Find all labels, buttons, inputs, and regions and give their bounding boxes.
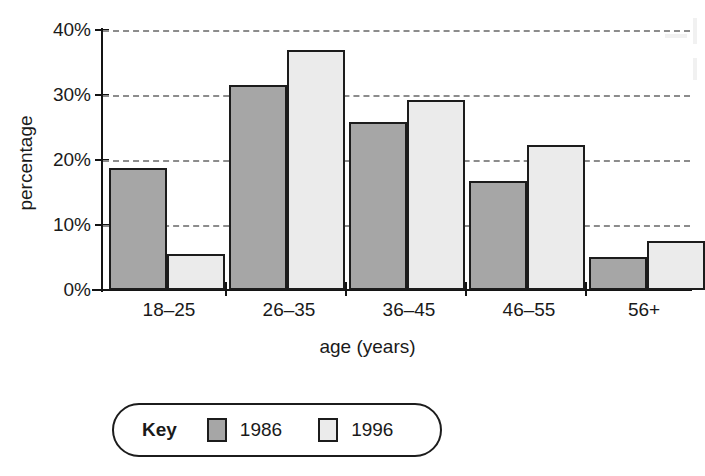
legend: Key 1986 1996 [112,403,442,457]
legend-title: Key [142,419,177,441]
y-tick-label-text: 30% [53,84,91,105]
x-category-label-46-55: 46–55 [469,299,589,321]
legend-item-1996: 1996 [318,418,393,442]
y-tick-label-10: 10% [0,214,91,236]
scan-artifact [693,18,697,44]
y-tick-label-text: 40% [53,19,91,40]
x-axis-title-text: age (years) [319,336,415,357]
bar-1986-26-35 [229,85,287,290]
legend-label-1986: 1986 [240,419,282,441]
legend-label-1996: 1996 [351,419,393,441]
x-category-label-26-35: 26–35 [229,299,349,321]
y-tick-label-20: 20% [0,149,91,171]
x-category-label-56plus: 56+ [589,299,699,321]
bar-1996-56plus [647,241,705,290]
y-tick-label-text: 10% [53,214,91,235]
y-tick-label-0: 0% [0,279,91,301]
bar-1996-18-25 [167,254,225,290]
gridline-30 [103,95,690,97]
x-category-label-18-25: 18–25 [109,299,229,321]
plot-area [103,30,690,290]
y-tick-label-30: 30% [0,84,91,106]
scan-artifact [693,58,697,80]
bar-1996-36-45 [407,100,465,290]
gridline-40 [103,30,690,32]
bar-1996-26-35 [287,50,345,290]
y-tick-label-text: 20% [53,149,91,170]
bar-1986-56plus [589,257,647,290]
x-axis-title: age (years) [0,336,699,358]
y-tick-label-40: 40% [0,19,91,41]
legend-item-1986: 1986 [207,418,282,442]
bar-1986-46-55 [469,181,527,290]
y-tick-label-text: 0% [64,279,91,300]
legend-swatch-icon-1996 [318,418,338,442]
bar-1986-18-25 [109,168,167,290]
bar-1996-46-55 [527,145,585,290]
x-category-label-36-45: 36–45 [349,299,469,321]
legend-swatch-icon-1986 [207,418,227,442]
bar-1986-36-45 [349,122,407,290]
